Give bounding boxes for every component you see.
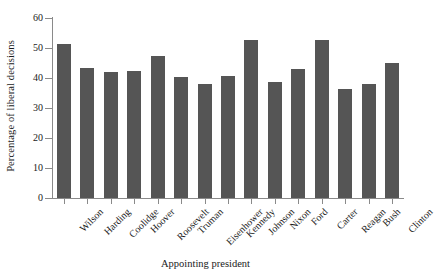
y-tick-label-text: 40 bbox=[3, 73, 43, 83]
bar bbox=[338, 89, 352, 199]
bar bbox=[57, 44, 71, 198]
x-tick-mark bbox=[87, 199, 88, 204]
y-tick-label: 30 bbox=[0, 103, 43, 113]
bar bbox=[362, 84, 376, 198]
y-tick-label: 40 bbox=[0, 73, 43, 83]
bar bbox=[80, 68, 94, 198]
bar-series bbox=[52, 18, 404, 198]
x-axis-title: Appointing president bbox=[0, 258, 411, 269]
x-tick-label: Clinton bbox=[406, 206, 435, 235]
x-tick-mark bbox=[369, 199, 370, 204]
y-tick-mark bbox=[45, 198, 53, 199]
y-tick-label: 60 bbox=[0, 13, 43, 23]
y-tick-label: 0 bbox=[0, 193, 43, 203]
x-tick-label: Wilson bbox=[77, 206, 105, 234]
y-tick-label: 20 bbox=[0, 133, 43, 143]
y-tick-label-text: 10 bbox=[3, 163, 43, 173]
x-tick-mark bbox=[228, 199, 229, 204]
y-tick-label-text: 50 bbox=[3, 43, 43, 53]
x-tick-mark bbox=[298, 199, 299, 204]
bar bbox=[268, 82, 282, 198]
y-tick-label-text: 0 bbox=[3, 193, 43, 203]
bar bbox=[104, 72, 118, 198]
x-tick-mark bbox=[111, 199, 112, 204]
x-tick-mark bbox=[345, 199, 346, 204]
y-tick-label-text: 60 bbox=[3, 13, 43, 23]
bar bbox=[174, 77, 188, 198]
bar bbox=[198, 84, 212, 198]
y-tick-label: 10 bbox=[0, 163, 43, 173]
x-tick-mark bbox=[181, 199, 182, 204]
bar bbox=[221, 76, 235, 198]
bar bbox=[315, 40, 329, 198]
x-tick-mark bbox=[251, 199, 252, 204]
bar bbox=[385, 63, 399, 198]
x-tick-mark bbox=[392, 199, 393, 204]
y-tick-label-text: 30 bbox=[3, 103, 43, 113]
bar bbox=[244, 40, 258, 198]
y-tick-label-text: 20 bbox=[3, 133, 43, 143]
bar bbox=[151, 56, 165, 198]
bar bbox=[291, 69, 305, 198]
x-tick-mark bbox=[275, 199, 276, 204]
x-tick-mark bbox=[158, 199, 159, 204]
x-tick-label: Ford bbox=[309, 206, 330, 227]
x-tick-mark bbox=[64, 199, 65, 204]
y-tick-label: 50 bbox=[0, 43, 43, 53]
x-tick-mark bbox=[322, 199, 323, 204]
x-tick-mark bbox=[134, 199, 135, 204]
x-tick-label: Carter bbox=[334, 206, 359, 231]
bar bbox=[127, 71, 141, 199]
x-tick-mark bbox=[205, 199, 206, 204]
